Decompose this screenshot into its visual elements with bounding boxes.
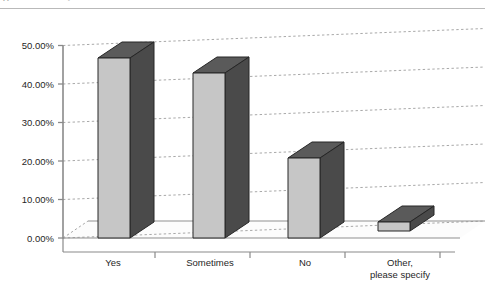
y-tick-label-10: 10.00% bbox=[22, 194, 55, 205]
y-tick-label-0: 0.00% bbox=[27, 233, 54, 244]
bar-chart: 50.00% 40.00% 30.00% 20.00% 10.00% 0.00% bbox=[0, 0, 485, 290]
y-tick-label-50: 50.00% bbox=[22, 40, 55, 51]
chart-stage: pp. Question 12 continued bbox=[0, 0, 485, 290]
bar-other-front-face bbox=[378, 222, 410, 231]
y-tick-label-40: 40.00% bbox=[22, 79, 55, 90]
bar-no-side-face bbox=[320, 142, 344, 238]
category-label-no: No bbox=[299, 257, 311, 268]
bar-sometimes-front-face bbox=[193, 73, 225, 238]
bar-no[interactable] bbox=[288, 142, 344, 238]
bar-yes[interactable] bbox=[98, 42, 154, 238]
y-axis-tick-labels: 50.00% 40.00% 30.00% 20.00% 10.00% 0.00% bbox=[22, 40, 55, 244]
category-label-other-line2: please specify bbox=[370, 269, 430, 280]
category-label-yes: Yes bbox=[105, 257, 121, 268]
y-tick-label-20: 20.00% bbox=[22, 156, 55, 167]
y-tick-label-30: 30.00% bbox=[22, 117, 55, 128]
bar-yes-side-face bbox=[130, 42, 154, 238]
bar-sometimes[interactable] bbox=[193, 57, 249, 238]
bar-sometimes-side-face bbox=[225, 57, 249, 238]
x-axis-category-labels: Yes Sometimes No Other, please specify bbox=[105, 257, 430, 280]
bar-no-front-face bbox=[288, 158, 320, 238]
category-label-sometimes: Sometimes bbox=[186, 257, 234, 268]
category-label-other-line1: Other, bbox=[387, 257, 413, 268]
bar-yes-front-face bbox=[98, 58, 130, 238]
